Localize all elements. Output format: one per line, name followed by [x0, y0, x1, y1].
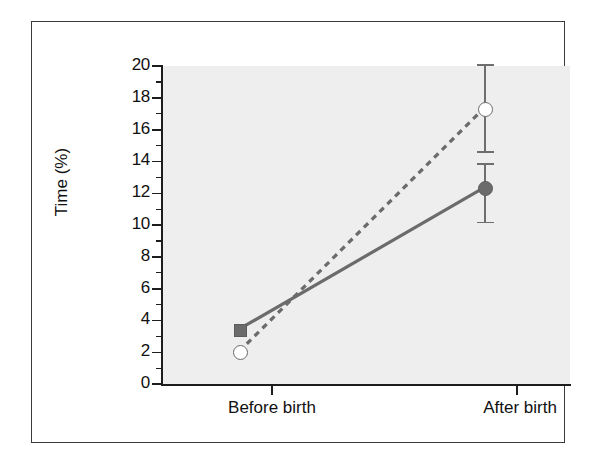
series-solid-line — [239, 188, 484, 330]
figure-page: 20 18 16 14 12 10 8 6 4 2 0 Time (%) Bef… — [0, 0, 601, 455]
figure-frame: 20 18 16 14 12 10 8 6 4 2 0 Time (%) Bef… — [31, 21, 565, 443]
series-dashed-line — [239, 109, 484, 352]
series-lines — [30, 20, 564, 442]
